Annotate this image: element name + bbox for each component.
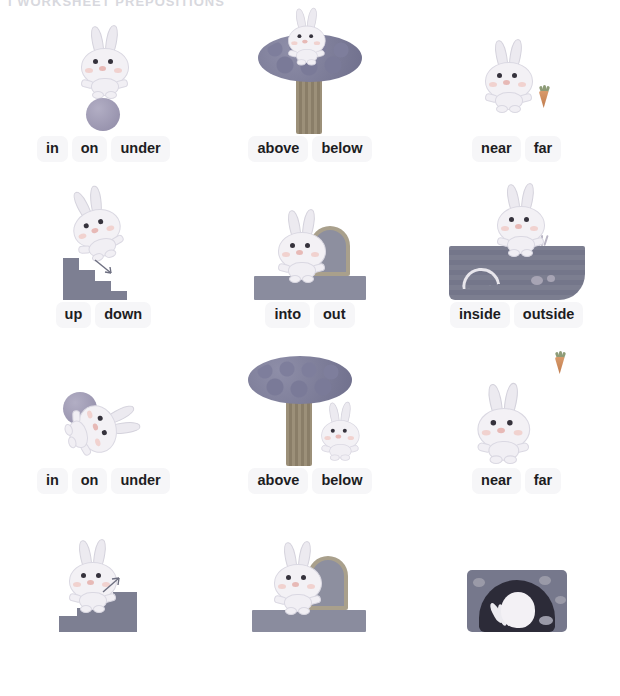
option-pills: inside outside: [413, 302, 620, 328]
rabbit-eye-left: [297, 34, 301, 38]
panel-rabbit-into-door: [207, 512, 414, 678]
option-pill[interactable]: below: [312, 468, 371, 494]
stair-step: [59, 616, 77, 632]
illustration-rabbit-near-carrot: [413, 14, 620, 134]
option-pill[interactable]: far: [525, 468, 562, 494]
rabbit-cheek-left: [282, 252, 290, 257]
rabbit-foot-right: [302, 275, 314, 283]
rabbit-foot-left: [489, 455, 502, 464]
tree-canopy: [248, 356, 352, 404]
option-pill[interactable]: below: [312, 136, 371, 162]
option-pills: above below: [207, 468, 414, 494]
panel-rabbit-above-tree: above below: [207, 14, 414, 180]
option-pill[interactable]: down: [95, 302, 151, 328]
option-pill[interactable]: under: [111, 136, 169, 162]
rabbit-nose: [503, 80, 510, 85]
carrot-body: [539, 91, 549, 108]
rabbit-eye-right: [343, 429, 347, 433]
rock-shape: [539, 616, 553, 625]
option-pill[interactable]: in: [37, 136, 68, 162]
rabbit-nose: [296, 250, 303, 255]
illustration-rabbit-on-ball: [0, 14, 207, 134]
option-pills: in on under: [0, 468, 207, 494]
stair-step: [111, 291, 127, 300]
option-pill[interactable]: out: [314, 302, 355, 328]
rabbit-foot-left: [508, 249, 520, 257]
option-pill[interactable]: on: [72, 136, 108, 162]
option-pill[interactable]: inside: [450, 302, 510, 328]
option-pill[interactable]: outside: [514, 302, 584, 328]
rabbit-foot-right: [307, 59, 316, 65]
rabbit-cheek-right: [513, 430, 522, 436]
option-pill[interactable]: above: [248, 136, 308, 162]
carrot-icon: [537, 86, 551, 108]
rabbit-eye-right: [524, 217, 529, 222]
option-pill[interactable]: in: [37, 468, 68, 494]
rock-shape: [555, 596, 566, 604]
rabbit-foot-left: [285, 607, 297, 615]
illustration-rabbit-below-tree: [207, 346, 414, 466]
rabbit-eye-left: [331, 429, 335, 433]
option-pill[interactable]: up: [56, 302, 92, 328]
rabbit-nose: [515, 224, 522, 229]
illustration-rabbit-outside-burrow: [413, 180, 620, 300]
rabbit-cheek-right: [530, 226, 538, 231]
option-pills: into out: [207, 302, 414, 328]
stair-step: [63, 258, 79, 300]
rabbit-figure: [285, 10, 327, 60]
option-pill[interactable]: above: [248, 468, 308, 494]
panel-rabbit-down-stairs: up down: [0, 180, 207, 346]
panel-rabbit-on-ball: in on under: [0, 14, 207, 180]
rabbit-cheek-left: [324, 436, 330, 440]
option-pill[interactable]: on: [72, 468, 108, 494]
arrow-down-icon: [93, 258, 119, 278]
panel-rabbit-outside-burrow: inside outside: [413, 180, 620, 346]
rabbit-figure: [274, 212, 328, 276]
option-pills: above below: [207, 136, 414, 162]
tree-trunk: [286, 398, 312, 466]
option-pills: near far: [413, 136, 620, 162]
rabbit-eye-right: [305, 243, 310, 248]
option-pills: up down: [0, 302, 207, 328]
option-pill[interactable]: far: [525, 136, 562, 162]
rabbit-figure: [270, 544, 324, 608]
rabbit-nose: [497, 428, 505, 434]
rabbit-nose: [292, 582, 299, 587]
panel-rabbit-below-tree: above below: [207, 346, 414, 512]
illustration-rabbit-down-stairs: [0, 180, 207, 300]
rabbit-eye-right: [301, 575, 306, 580]
rabbit-cheek-right: [311, 252, 319, 257]
rabbit-figure: [481, 42, 535, 106]
worksheet-page: I WORKSHEET PREPOSITIONS: [0, 0, 620, 696]
rabbit-nose: [302, 40, 307, 44]
rabbit-eye-left: [509, 217, 514, 222]
option-pill[interactable]: near: [472, 468, 521, 494]
rabbit-foot-left: [496, 105, 508, 113]
rabbit-cheek-left: [481, 430, 490, 436]
option-pill[interactable]: near: [472, 136, 521, 162]
panel-grid: in on under: [0, 14, 620, 678]
rabbit-figure: [60, 184, 130, 260]
rabbit-eye-right: [507, 420, 512, 426]
rabbit-foot-left: [330, 454, 340, 460]
rabbit-figure: [77, 28, 131, 92]
rabbit-cheek-right: [307, 584, 315, 589]
rabbit-eye-left: [286, 575, 291, 580]
rabbit-eye-left: [290, 243, 295, 248]
rabbit-cheek-left: [291, 41, 297, 45]
rabbit-foot-right: [298, 607, 310, 615]
option-pill[interactable]: under: [111, 468, 169, 494]
option-pills: near far: [413, 468, 620, 494]
rabbit-foot-left: [297, 59, 306, 65]
rabbit-eye-left: [490, 420, 496, 426]
illustration-rabbit-into-door: [207, 512, 414, 632]
option-pill[interactable]: into: [265, 302, 310, 328]
rabbit-cheek-left: [489, 82, 497, 87]
rabbit-cheek-left: [501, 226, 509, 231]
option-pills: in on under: [0, 136, 207, 162]
carrot-body: [555, 357, 565, 374]
rabbit-eye-right: [512, 73, 517, 78]
rabbit-cheek-right: [314, 41, 320, 45]
cut-off-header-text: I WORKSHEET PREPOSITIONS: [8, 0, 308, 6]
stair-step: [95, 281, 111, 300]
